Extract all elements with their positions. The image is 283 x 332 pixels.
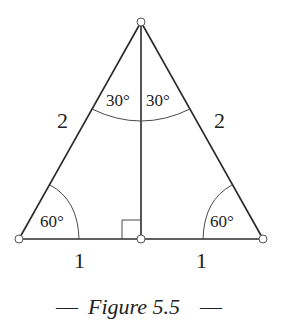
vertex-bottom-right bbox=[259, 235, 267, 243]
label-angle-top-left: 30° bbox=[106, 91, 130, 110]
label-left-base: 1 bbox=[74, 248, 85, 273]
label-left-hypotenuse: 2 bbox=[57, 108, 68, 133]
triangle-diagram: 2 2 1 1 30° 30° 60° 60° — Figure 5.5 — bbox=[0, 0, 283, 332]
label-angle-top-right: 30° bbox=[146, 91, 170, 110]
figure-caption: Figure 5.5 bbox=[87, 294, 180, 319]
caption-dash-left: — bbox=[55, 294, 79, 319]
right-side bbox=[141, 22, 263, 239]
vertex-bottom-mid bbox=[137, 235, 145, 243]
label-angle-bottom-left: 60° bbox=[40, 212, 64, 231]
label-right-base: 1 bbox=[196, 248, 207, 273]
caption-dash-right: — bbox=[199, 294, 223, 319]
vertex-bottom-left bbox=[15, 235, 23, 243]
left-side bbox=[19, 22, 141, 239]
vertex-apex bbox=[137, 18, 145, 26]
label-right-hypotenuse: 2 bbox=[214, 108, 225, 133]
label-angle-bottom-right: 60° bbox=[210, 212, 234, 231]
